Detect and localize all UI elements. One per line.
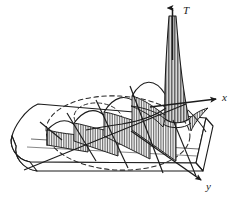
y-axis-label: y (205, 180, 211, 192)
x-axis-label: x (221, 91, 227, 103)
figure-ink: T x y (11, 4, 227, 192)
spike-body (165, 16, 189, 123)
figure-container: T x y (0, 0, 235, 220)
temperature-surface-figure: T x y (0, 0, 235, 220)
t-axis-label: T (183, 4, 190, 16)
x-axis: x (150, 91, 227, 107)
